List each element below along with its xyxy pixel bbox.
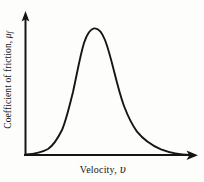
plot-canvas (0, 0, 204, 182)
x-axis-label-symbol: υ (120, 163, 127, 175)
x-axis-label: Velocity, υ (25, 163, 181, 175)
y-axis-label-subscript: f (5, 31, 14, 33)
friction-velocity-figure: Coefficient of friction, μf Velocity, υ (0, 0, 204, 182)
y-axis-label: Coefficient of friction, μf (1, 5, 15, 155)
friction-curve (26, 28, 190, 155)
x-axis-label-text: Velocity, (80, 164, 120, 175)
y-axis-label-symbol: μ (3, 33, 13, 38)
y-axis-label-text: Coefficient of friction, (3, 38, 13, 128)
